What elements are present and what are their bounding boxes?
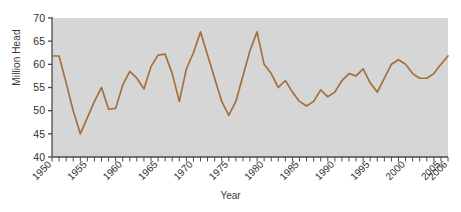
y-axis-title: Million Head xyxy=(11,0,22,118)
y-axis-tick-label: 65 xyxy=(33,35,45,47)
y-axis-tick-label: 50 xyxy=(33,104,45,116)
y-axis-tick-label: 45 xyxy=(33,128,45,140)
x-axis-tick-label: 1965 xyxy=(136,158,160,182)
x-axis-title: Year xyxy=(0,190,461,201)
y-axis-tick-label: 70 xyxy=(33,12,45,24)
y-axis-tick-label: 55 xyxy=(33,81,45,93)
x-axis-tick-label: 1955 xyxy=(65,158,89,182)
x-axis-tick-label: 1980 xyxy=(242,158,266,182)
x-axis-tick-label: 2006 xyxy=(426,158,450,182)
y-axis-tick-labels: 40455055606570 xyxy=(33,12,45,163)
x-axis-tick-label: 1960 xyxy=(101,158,125,182)
x-axis-tick-label: 1975 xyxy=(207,158,231,182)
x-axis-tick-label: 1970 xyxy=(171,158,195,182)
x-axis-tick-label: 1995 xyxy=(348,158,372,182)
chart-figure: Million Head Year 40455055606570 1950195… xyxy=(0,0,461,212)
x-axis-minor-tick-marks xyxy=(52,157,448,162)
x-axis-tick-label: 1990 xyxy=(313,158,337,182)
x-axis-tick-label: 1985 xyxy=(277,158,301,182)
x-axis-tick-label: 2000 xyxy=(383,158,407,182)
line-chart-plot: 40455055606570 1950195519601965197019751… xyxy=(0,0,461,212)
x-axis-tick-labels: 1950195519601965197019751980198519901995… xyxy=(30,158,450,182)
plot-background xyxy=(52,18,448,157)
y-axis-tick-label: 60 xyxy=(33,58,45,70)
